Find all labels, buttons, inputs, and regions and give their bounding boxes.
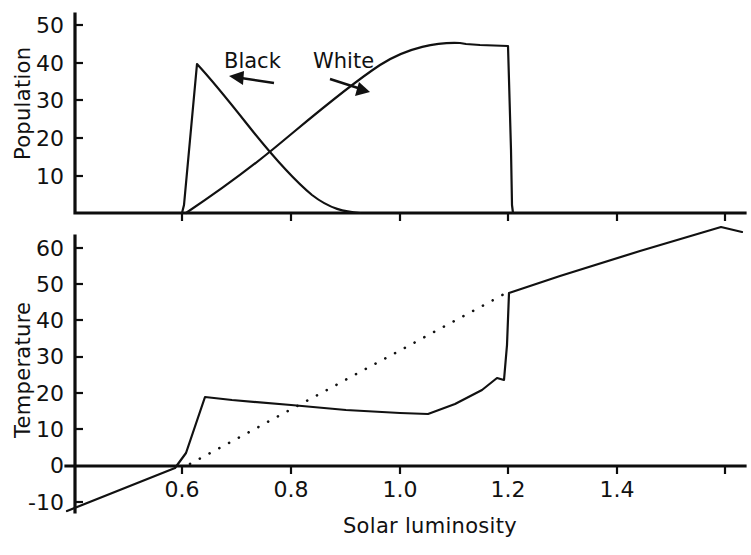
population-axes	[75, 14, 745, 213]
temperature-with-daisies-curve	[67, 227, 742, 511]
temperature-xtick-1-2: 1.2	[491, 477, 526, 502]
temperature-ytick-minus-10: -10	[28, 490, 64, 515]
black-curve-annotation-label: Black	[224, 49, 282, 73]
temperature-xtick-0-6: 0.6	[165, 477, 200, 502]
population-ytick-20: 20	[36, 126, 64, 151]
temperature-xtick-0-8: 0.8	[274, 477, 309, 502]
figure-canvas: Population 50 40 30 20 10	[0, 0, 751, 555]
temperature-ytick-20: 20	[36, 381, 64, 406]
black-population-curve	[182, 64, 360, 213]
population-ytick-40: 40	[36, 51, 64, 76]
temperature-xtick-1-4: 1.4	[600, 477, 635, 502]
population-ytick-30: 30	[36, 88, 64, 113]
temperature-ytick-50: 50	[36, 272, 64, 297]
population-ytick-10: 10	[36, 164, 64, 189]
temperature-no-daisies-curve	[190, 292, 508, 464]
temperature-ytick-0: 0	[50, 453, 64, 478]
temperature-ytick-10: 10	[36, 417, 64, 442]
temperature-ytick-30: 30	[36, 344, 64, 369]
population-axis-label: Population	[11, 47, 35, 160]
white-curve-annotation-label: White	[313, 49, 374, 73]
black-annotation-arrow	[229, 71, 274, 85]
temperature-axis-label: Temperature	[11, 302, 35, 439]
population-ytick-50: 50	[36, 13, 64, 38]
temperature-panel: Temperature 60 50 40 30 20 10 0 -10	[11, 227, 745, 538]
daisyworld-figure: Population 50 40 30 20 10	[0, 0, 751, 555]
temperature-ytick-40: 40	[36, 308, 64, 333]
population-panel: Population 50 40 30 20 10	[11, 13, 745, 221]
temperature-xtick-1-0: 1.0	[383, 477, 418, 502]
solar-luminosity-axis-label: Solar luminosity	[343, 514, 517, 538]
temperature-ytick-60: 60	[36, 236, 64, 261]
